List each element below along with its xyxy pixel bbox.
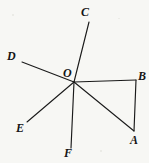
- segment-O-F: [71, 82, 74, 148]
- vertex-label-O: O: [63, 67, 72, 79]
- scan-speck: [40, 100, 41, 102]
- segment-O-A: [74, 82, 134, 131]
- scan-speck: [118, 18, 120, 19]
- vertex-label-A: A: [130, 134, 138, 146]
- vertex-label-B: B: [138, 70, 146, 82]
- vertex-label-D: D: [7, 50, 16, 62]
- vertex-label-F: F: [64, 147, 72, 159]
- vertex-label-C: C: [81, 6, 89, 18]
- vertex-label-E: E: [16, 122, 24, 134]
- scan-speck: [12, 14, 14, 16]
- figure-canvas: [0, 0, 149, 163]
- segment-B-A: [134, 80, 136, 131]
- segment-O-C: [74, 22, 89, 82]
- scan-speck: [100, 150, 102, 152]
- segment-O-E: [27, 82, 74, 122]
- geometry-figure: O A B C D E F: [0, 0, 149, 163]
- segment-O-B: [74, 80, 136, 82]
